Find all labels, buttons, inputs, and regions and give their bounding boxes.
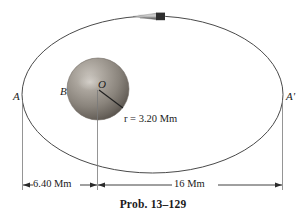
radius-callout-label: r = 3.20 Mm	[124, 114, 177, 125]
planet-center-label-o: O	[98, 79, 106, 90]
spacecraft-icon	[133, 13, 165, 21]
perigee-dimension-label: 6.40 Mm	[33, 179, 72, 190]
apse-label-a-prime: A'	[286, 91, 295, 102]
apogee-dimension-label: 16 Mm	[174, 179, 205, 190]
physics-problem-figure: A A' B O r = 3.20 Mm 6.40 Mm 16 Mm Prob.…	[0, 0, 306, 220]
figure-caption: Prob. 13–129	[0, 198, 306, 210]
planet-surface-label-b: B	[60, 86, 67, 97]
apse-label-a: A	[13, 91, 20, 102]
